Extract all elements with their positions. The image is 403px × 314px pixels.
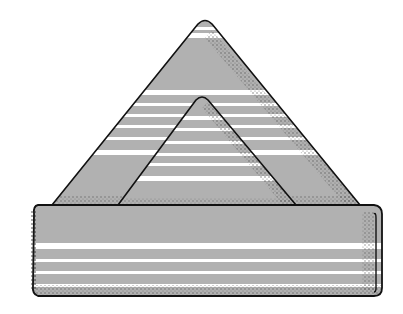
napkin-drawing [0,0,403,314]
folded-band [0,205,403,296]
napkin-illustration: Folded striped napkin (bishop's hat / py… [0,0,403,314]
